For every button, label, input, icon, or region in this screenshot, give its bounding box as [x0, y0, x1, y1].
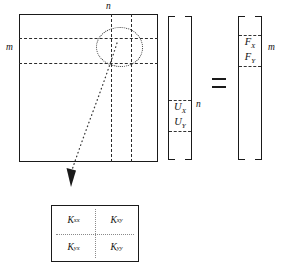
f-entry-x: FX [243, 36, 258, 51]
matrix-left-dimension-label: m [6, 43, 13, 53]
k-cell-yx: Kyx [52, 234, 95, 262]
force-vector: FX FY [238, 16, 262, 160]
f-entry-rule-bottom [239, 66, 261, 67]
u-entry-y: UY [172, 116, 188, 131]
callout-arrow-icon [55, 35, 125, 195]
k-submatrix-box: Kxx Kxy Kyx Kyy [51, 205, 139, 262]
f-vector-entries: FX FY [239, 35, 261, 67]
matrix-top-dimension-label: n [106, 2, 111, 12]
k-cell-yy: Kyy [95, 234, 138, 262]
u-vector-dimension-label: n [196, 100, 201, 110]
f-entry-y: FY [243, 51, 257, 66]
f-vector-dimension-label: m [268, 43, 275, 53]
displacement-vector: UX UY [168, 16, 192, 160]
u-vector-bracket-left [168, 16, 175, 160]
u-entry-rule-bottom [169, 131, 191, 132]
k-cell-xx: Kxx [52, 206, 95, 234]
u-vector-bracket-right [185, 16, 192, 160]
equals-sign [212, 78, 226, 90]
u-vector-entries: UX UY [169, 100, 191, 132]
u-entry-x: UX [172, 101, 188, 116]
matrix-equation-figure: n m UX UY n [0, 0, 286, 269]
k-cell-xy: Kxy [95, 206, 138, 234]
